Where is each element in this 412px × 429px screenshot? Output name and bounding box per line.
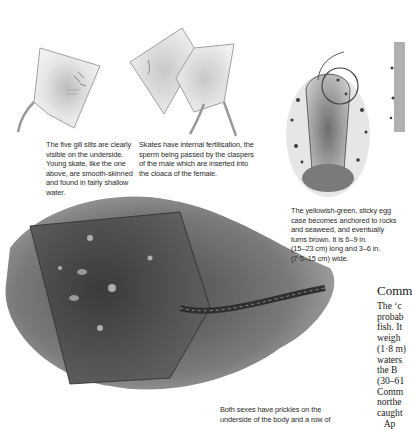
caption-line: (15–23 cm) long and 3–6 in.: [291, 244, 396, 254]
article-column: Comm The ‘c probab fish. It weigh (1·8 m…: [377, 283, 412, 429]
caption-line: above, are smooth-skinned: [46, 169, 133, 179]
caption-line: turns brown. It is 6–9 in.: [291, 235, 396, 245]
caption-line: The five gill slits are clearly: [46, 140, 133, 150]
caption-line: Skates have internal fertilisation, the: [139, 140, 254, 150]
caption-gill-slits: The five gill slits are clearly visible …: [46, 140, 133, 198]
caption-line: case becomes anchored to rocks: [291, 216, 396, 226]
article-line: (1·8 m): [377, 344, 412, 355]
caption-line: underside of the body and a row of: [220, 415, 330, 425]
mating-skates-illustration: [124, 18, 259, 138]
caption-line: sperm being passed by the claspers: [139, 150, 254, 160]
caption-line: and found in fairly shallow: [46, 178, 133, 188]
caption-line: The yellowish-green, sticky egg: [291, 206, 396, 216]
caption-fertilisation: Skates have internal fertilisation, the …: [139, 140, 254, 178]
egg-case-illustration: [278, 50, 378, 200]
caption-line: visible on the underside.: [46, 150, 133, 160]
young-skate-illustration: [8, 40, 108, 140]
caption-line: Young skate, like the one: [46, 159, 133, 169]
caption-line: the cloaca of the female.: [139, 169, 254, 179]
caption-line: Both sexes have prickles on the: [220, 405, 330, 415]
caption-prickles: Both sexes have prickles on the undersid…: [220, 405, 330, 424]
caption-line: (7·5–15 cm) wide.: [291, 254, 396, 264]
caption-egg-case: The yellowish-green, sticky egg case bec…: [291, 206, 396, 264]
article-line: Ap: [377, 419, 412, 429]
egg-case-partial-illustration: [388, 38, 405, 138]
caption-line: of the male which are inserted into: [139, 159, 254, 169]
article-heading: Comm: [377, 283, 412, 299]
caption-line: water.: [46, 188, 133, 198]
caption-line: and seaweed, and eventually: [291, 225, 396, 235]
